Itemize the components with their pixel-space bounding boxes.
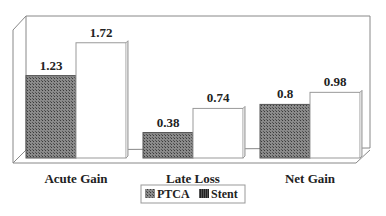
value-label: 1.72 [90,25,113,40]
category-label: Late Loss [166,171,220,186]
bar-stent-acute-gain [76,43,126,158]
bar-stent-late-loss [193,108,243,158]
value-label: 0.74 [207,90,230,105]
category-label: Acute Gain [44,171,108,186]
category-labels: Acute GainLate LossNet Gain [44,171,335,186]
bar-chart: 1.231.720.380.740.80.98 Acute GainLate L… [0,0,386,216]
legend-label-stent: Stent [211,187,238,201]
legend-swatch-ptca [145,189,155,198]
bar-stent-net-gain [310,92,360,158]
bar-ptca-acute-gain [26,76,76,158]
value-label: 0.98 [324,74,347,89]
bar-ptca-late-loss [143,133,193,158]
legend: PTCA Stent [141,185,245,203]
bar-ptca-net-gain [260,104,310,158]
value-label: 1.23 [40,58,63,73]
value-label: 0.38 [157,115,180,130]
value-label: 0.8 [277,86,294,101]
legend-swatch-stent [199,189,209,198]
legend-label-ptca: PTCA [157,187,190,201]
category-label: Net Gain [285,171,336,186]
bars [26,41,362,158]
